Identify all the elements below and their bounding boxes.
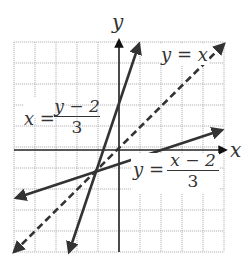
y-axis-label: y [112, 10, 123, 34]
equation-lhs: y = [133, 159, 164, 180]
denominator: 3 [167, 172, 219, 190]
numerator: x − 2 [167, 151, 219, 169]
equation-fraction: y − 2 3 [54, 97, 100, 136]
identity-line-label: y = x [160, 44, 209, 65]
graph-canvas [0, 0, 250, 267]
numerator: y − 2 [54, 97, 100, 115]
equation-y-eq-label: y = x − 2 3 [131, 153, 219, 193]
equation-x-eq-label: x = y − 2 3 [24, 97, 55, 118]
equation-lhs: x = [24, 108, 55, 129]
x-axis-label: x [230, 138, 241, 162]
equation-fraction: x − 2 3 [167, 151, 219, 190]
denominator: 3 [54, 118, 100, 136]
line-x-eq-y-minus-2-over-3 [69, 44, 139, 252]
